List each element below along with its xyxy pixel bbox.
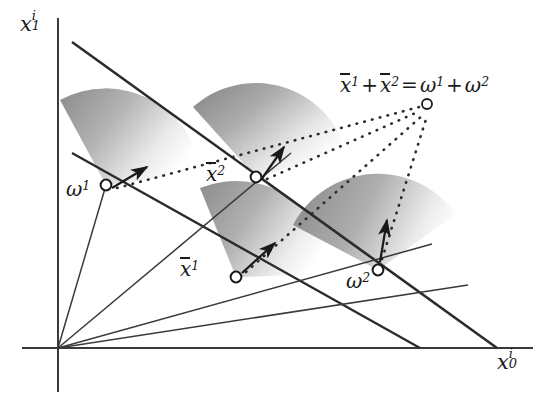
aggregate-equation-label: x1+x2=ω1+ω2 <box>340 75 489 95</box>
y-axis-label: xi1 <box>20 14 32 35</box>
marker-omega1[interactable] <box>101 180 112 191</box>
point-label-omega1: ω1 <box>66 179 90 199</box>
equilibrium-figure: xi1 xi0 ω1 x2 x1 ω2 x1+x2=ω1+ω2 <box>0 0 547 401</box>
point-label-xbar1: x1 <box>180 259 199 279</box>
point-label-xbar2: x2 <box>206 164 225 184</box>
marker-xbar2[interactable] <box>251 172 262 183</box>
marker-xbar1[interactable] <box>231 272 242 283</box>
marker-aggregate[interactable] <box>422 99 432 109</box>
point-label-omega2: ω2 <box>346 271 370 291</box>
x-axis-label: xi0 <box>497 352 509 373</box>
marker-omega2[interactable] <box>373 265 384 276</box>
ray-to-omega2 <box>58 285 468 348</box>
ray-to-omega1 <box>58 185 106 348</box>
